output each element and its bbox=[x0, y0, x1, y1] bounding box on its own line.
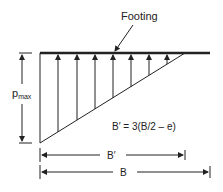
pmax-label: pmax bbox=[12, 87, 32, 100]
b-label: B bbox=[120, 167, 127, 178]
footing-pressure-diagram: Footing pmax B′ = 3(B/2 – e) B′ B bbox=[0, 0, 223, 192]
footing-label: Footing bbox=[121, 10, 158, 22]
footing-leader-arrow bbox=[115, 25, 133, 51]
b-prime-label: B′ bbox=[107, 150, 116, 161]
equation-label: B′ = 3(B/2 – e) bbox=[112, 121, 176, 132]
